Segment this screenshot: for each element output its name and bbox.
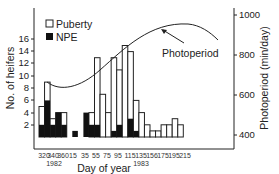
y-tick-6: 6 <box>24 94 29 105</box>
y2-tick-600: 600 <box>239 89 255 100</box>
y2-tick-400: 400 <box>239 129 255 140</box>
legend-swatch-puberty <box>46 20 53 27</box>
left-y-ticks: 16 14 12 10 8 6 4 2 <box>18 33 34 130</box>
x-tick: 55 <box>92 152 100 159</box>
annotation-arrow <box>163 30 184 43</box>
npe-bar <box>45 100 51 137</box>
legend-label-npe: NPE <box>56 31 78 43</box>
y-tick-10: 10 <box>18 70 29 81</box>
puberty-bar <box>106 113 112 137</box>
y-tick-12: 12 <box>18 57 29 68</box>
puberty-bar <box>111 58 117 137</box>
npe-bar <box>56 113 62 137</box>
legend: Puberty NPE <box>46 18 93 43</box>
legend-swatch-npe <box>46 33 53 40</box>
npe-bar <box>83 113 89 137</box>
puberty-bar <box>167 125 173 137</box>
left-y-axis-title: No. of heifers <box>4 47 16 109</box>
x-tick: 215 <box>179 152 191 159</box>
puberty-bar <box>100 94 106 137</box>
npe-bar <box>133 131 139 137</box>
y2-tick-800: 800 <box>239 49 255 60</box>
x-tick: 15 <box>69 152 77 159</box>
npe-bar <box>50 125 56 137</box>
x-tick: 115 <box>124 152 135 159</box>
npe-bar <box>61 125 67 137</box>
legend-label-puberty: Puberty <box>56 18 93 30</box>
puberty-bar <box>122 46 128 138</box>
npe-bar <box>89 125 95 137</box>
right-y-axis-title: Photoperiod (min/day) <box>258 26 270 129</box>
x-axis-title: Day of year <box>77 162 131 174</box>
y2-tick-1000: 1000 <box>239 9 260 20</box>
puberty-bar <box>156 131 162 137</box>
y-tick-8: 8 <box>24 82 29 93</box>
npe-bar <box>117 125 123 137</box>
y-tick-14: 14 <box>18 45 29 56</box>
puberty-bar <box>144 125 150 137</box>
x-tick: 75 <box>103 152 111 159</box>
x-tick: 35 <box>81 152 89 159</box>
year-label-1983: 1983 <box>133 160 149 167</box>
npe-bar <box>39 125 45 137</box>
right-y-ticks: 1000 800 600 400 <box>234 9 260 140</box>
puberty-bar <box>178 125 184 137</box>
puberty-bar <box>172 119 178 137</box>
puberty-bar <box>161 125 167 137</box>
y-tick-16: 16 <box>18 33 29 44</box>
npe-bar <box>72 131 78 137</box>
x-tick: 95 <box>114 152 122 159</box>
y-tick-4: 4 <box>24 107 29 118</box>
npe-bar <box>128 119 134 137</box>
npe-bar <box>95 125 101 137</box>
photoperiod-annotation: Photoperiod <box>162 47 219 59</box>
puberty-bar <box>150 131 156 137</box>
histogram-chart: 16 14 12 10 8 6 4 2 1000 800 600 400 Pho… <box>0 0 279 174</box>
year-label-1982: 1982 <box>46 160 62 167</box>
y-tick-2: 2 <box>24 119 29 130</box>
puberty-bar <box>139 113 145 137</box>
npe-bar <box>111 131 117 137</box>
x-tick: 360 <box>57 152 69 159</box>
